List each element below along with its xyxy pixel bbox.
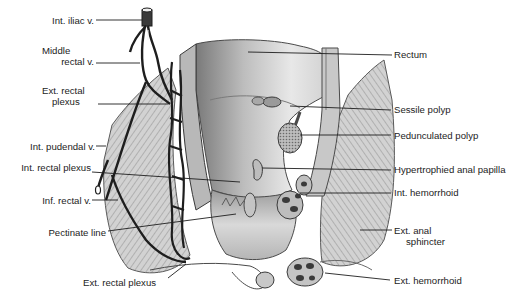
label-ext-rectal-plexus-upper-line2: plexus — [42, 96, 102, 107]
label-hypertrophied-anal-papilla: Hypertrophied anal papilla — [394, 164, 505, 175]
label-ext-anal-sphincter-line1: Ext. anal — [394, 225, 445, 236]
label-int-rectal-plexus: Int. rectal plexus — [0, 162, 91, 173]
label-ext-rectal-plexus-lower: Ext. rectal plexus — [83, 277, 156, 288]
label-pedunculated-polyp: Pedunculated polyp — [394, 130, 478, 141]
label-ext-anal-sphincter-line2: sphincter — [394, 236, 445, 247]
label-ext-rectal-plexus-upper: Ext. rectal plexus — [42, 85, 102, 107]
label-middle-rectal-v: Middle rectal v. — [10, 45, 94, 67]
label-middle-rectal-v-line1: Middle — [10, 45, 94, 56]
label-pectinate-line: Pectinate line — [0, 227, 106, 238]
label-ext-anal-sphincter: Ext. anal sphincter — [394, 225, 445, 247]
label-int-iliac-v: Int. iliac v. — [10, 15, 94, 26]
label-rectum: Rectum — [394, 49, 427, 60]
label-sessile-polyp: Sessile polyp — [394, 104, 451, 115]
label-inf-rectal-v: Inf. rectal v. — [0, 195, 91, 206]
sessile-polyp-shape — [263, 97, 281, 107]
anatomy-figure: Int. iliac v. Middle rectal v. Ext. rect… — [0, 0, 525, 297]
label-ext-rectal-plexus-upper-line1: Ext. rectal — [42, 85, 102, 96]
label-int-hemorrhoid: Int. hemorrhoid — [394, 187, 459, 198]
ext-hemorrhoid-shape — [287, 258, 323, 286]
label-ext-hemorrhoid: Ext. hemorrhoid — [394, 275, 462, 286]
label-int-pudendal-v: Int. pudendal v. — [0, 141, 95, 152]
label-middle-rectal-v-line2: rectal v. — [10, 56, 94, 67]
